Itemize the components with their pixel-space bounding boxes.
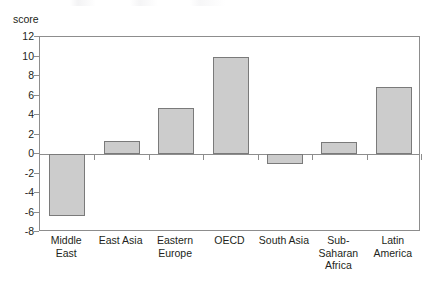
- x-category-label-line: OECD: [202, 234, 256, 247]
- x-tick-mark: [312, 154, 313, 160]
- x-category-label-line: America: [366, 247, 420, 260]
- plot-area: [39, 36, 420, 231]
- x-category-label-line: Middle East: [39, 234, 93, 259]
- x-tick-mark: [258, 154, 259, 160]
- bar: [104, 141, 140, 154]
- x-tick-mark: [421, 154, 422, 160]
- x-category-label-line: East Asia: [93, 234, 147, 247]
- bar: [158, 108, 194, 154]
- x-category-label-line: Eastern: [148, 234, 202, 247]
- x-category-label: South Asia: [257, 234, 311, 247]
- x-category-label: OECD: [202, 234, 256, 247]
- y-axis-title: score: [13, 13, 39, 25]
- bar: [213, 57, 249, 155]
- scan-artifact-strip: [0, 0, 439, 6]
- x-tick-mark: [149, 154, 150, 160]
- x-category-label: LatinAmerica: [366, 234, 420, 259]
- y-tick-mark: [34, 231, 39, 232]
- bar: [376, 87, 412, 154]
- bar: [321, 142, 357, 154]
- x-axis-category-labels: Middle EastEast AsiaEasternEuropeOECDSou…: [39, 234, 420, 284]
- bar-chart: score 121086420-2-4-6-8 Middle EastEast …: [0, 0, 439, 288]
- y-axis-ticks: [0, 36, 39, 231]
- x-category-label: Sub-SaharanAfrica: [311, 234, 365, 272]
- bar: [49, 154, 85, 216]
- bar: [267, 154, 303, 164]
- x-category-label-line: South Asia: [257, 234, 311, 247]
- x-category-label-line: Africa: [311, 259, 365, 272]
- x-category-label: EasternEurope: [148, 234, 202, 259]
- x-tick-mark: [94, 154, 95, 160]
- x-category-label: East Asia: [93, 234, 147, 247]
- x-category-label-line: Latin: [366, 234, 420, 247]
- zero-baseline: [40, 154, 419, 155]
- x-category-label: Middle East: [39, 234, 93, 259]
- x-category-label-line: Europe: [148, 247, 202, 260]
- x-category-label-line: Sub-Saharan: [311, 234, 365, 259]
- x-tick-mark: [367, 154, 368, 160]
- x-tick-mark: [203, 154, 204, 160]
